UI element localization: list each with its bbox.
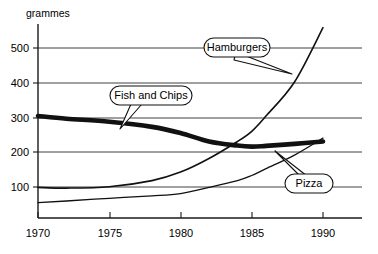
y-tick-label-400: 400 [11,77,29,89]
x-tick-label-1980: 1980 [169,227,193,239]
x-tick-label-1975: 1975 [98,227,122,239]
callout-label-hamburgers: Hamburgers [207,41,268,53]
x-tick-label-1985: 1985 [240,227,264,239]
callout-label-pizza: Pizza [296,177,324,189]
y-tick-label-200: 200 [11,146,29,158]
y-axis-title: grammes [26,7,70,19]
callout-hamburgers: Hamburgers [204,38,292,74]
callout-fish-and-chips: Fish and Chips [110,86,192,129]
gridlines [38,48,362,187]
chart-canvas: grammes 500 400 300 200 100 [0,0,378,254]
y-tick-label-300: 300 [11,112,29,124]
callout-label-fish-and-chips: Fish and Chips [114,89,188,101]
series-line-hamburgers [38,28,323,188]
x-tick-marks [38,212,323,218]
x-tick-label-1970: 1970 [26,227,50,239]
y-tick-label-500: 500 [11,42,29,54]
series-line-pizza [38,138,323,203]
x-tick-label-1990: 1990 [311,227,335,239]
y-tick-labels: 500 400 300 200 100 [11,42,29,193]
x-tick-labels: 1970 1975 1980 1985 1990 [26,227,335,239]
callout-pointer-pizza [275,151,307,176]
series-group [38,28,323,203]
line-chart: grammes 500 400 300 200 100 [0,0,378,254]
y-tick-label-100: 100 [11,181,29,193]
series-line-fish-and-chips [38,116,323,147]
